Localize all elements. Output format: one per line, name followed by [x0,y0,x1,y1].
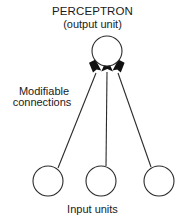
input-unit-node-3 [144,166,174,196]
input-unit-node-1 [33,166,63,196]
edge-input-2-to-output [106,72,107,166]
output-unit-node [92,36,122,66]
diagram-canvas [0,0,185,224]
modifiable-connections-label-line2: connections [4,96,80,108]
input-unit-nodes [33,166,174,196]
perceptron-diagram: PERCEPTRON (output unit) Modifiable conn… [0,0,185,224]
input-unit-node-2 [86,166,116,196]
input-units-caption: Input units [0,203,185,215]
edge-input-3-to-output [118,73,151,167]
diagram-title: PERCEPTRON [0,5,185,17]
diagram-subtitle: (output unit) [0,18,185,30]
